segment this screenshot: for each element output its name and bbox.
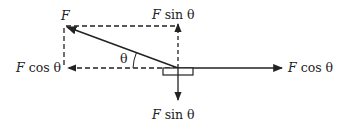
force-label: F [60, 8, 71, 23]
top-component-label: F sin θ [151, 7, 195, 22]
angle-arc [133, 53, 137, 69]
left-component-label: F cos θ [15, 60, 61, 75]
angle-label: θ [120, 51, 128, 66]
force-diagram: F θ F sin θ F sin θ F cos θ F cos θ [0, 0, 349, 128]
bottom-component-label: F sin θ [151, 107, 195, 122]
right-component-label: F cos θ [287, 60, 333, 75]
